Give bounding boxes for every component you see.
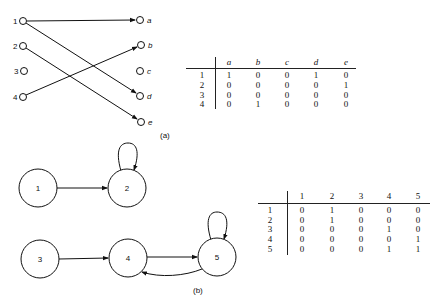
matrix-a-cell: 1 [248, 99, 268, 109]
bipartite-graph: 1 2 3 4 a b c d [13, 16, 170, 140]
node-2: 2 [108, 169, 146, 207]
matrix-b-row-label: 3 [260, 224, 280, 234]
matrix-b-cell: 1 [379, 224, 399, 234]
matrix-b-cell: 1 [379, 244, 399, 254]
matrix-b-cell: 1 [408, 234, 428, 244]
svg-text:3: 3 [14, 67, 19, 76]
matrix-a-cell: 0 [336, 99, 356, 109]
left-node-2: 2 [13, 42, 27, 51]
edge-1-a [27, 20, 135, 21]
matrix-b-cell: 0 [292, 244, 312, 254]
node-4: 4 [109, 239, 147, 277]
matrix-a-row-label: 4 [192, 99, 212, 109]
svg-text:d: d [147, 92, 152, 101]
right-node-d: d [137, 92, 153, 101]
right-node-e: e [138, 118, 154, 127]
matrix-b-row-label: 1 [260, 205, 280, 215]
matrix-b-header-rule [258, 203, 430, 204]
matrix-a-cell: 0 [306, 80, 326, 90]
matrix-b-cell: 0 [322, 224, 342, 234]
right-node-a: a [137, 16, 153, 25]
matrix-a-cell: 1 [219, 70, 239, 80]
matrix-a-cell: 0 [277, 99, 297, 109]
matrix-a-row-rule [215, 57, 216, 109]
matrix-a-col-header: e [336, 57, 356, 67]
matrix-a-col-header: a [219, 57, 239, 67]
matrix-b-cell: 0 [292, 224, 312, 234]
svg-text:b: b [148, 41, 153, 50]
matrix-b-cell: 0 [351, 244, 371, 254]
left-node-3: 3 [14, 67, 28, 76]
node-1: 1 [19, 169, 57, 207]
self-loop-2 [118, 143, 137, 171]
edge-5-4 [142, 269, 202, 276]
matrix-a-cell: 0 [248, 80, 268, 90]
edge-4-b [26, 47, 137, 95]
svg-text:1: 1 [13, 17, 18, 26]
matrix-a-cell: 0 [277, 80, 297, 90]
matrix-b-cell: 0 [292, 234, 312, 244]
left-node-1: 1 [13, 17, 27, 26]
edge-3-4 [59, 258, 108, 259]
matrix-b-row-label: 4 [260, 234, 280, 244]
matrix-a-col-header: d [306, 57, 326, 67]
node-5: 5 [198, 238, 236, 276]
matrix-a-col-header: b [248, 57, 268, 67]
figure-canvas: 1 2 3 4 a b c d [0, 0, 447, 306]
matrix-b-cell: 0 [322, 244, 342, 254]
matrix-b-col-header: 3 [351, 191, 371, 201]
matrix-a-cell: 0 [336, 70, 356, 80]
matrix-b-cell: 0 [408, 224, 428, 234]
matrix-b-row-rule [287, 191, 288, 255]
matrix-b-cell: 1 [408, 244, 428, 254]
matrix-b-cell: 0 [408, 205, 428, 215]
matrix-a-cell: 0 [219, 99, 239, 109]
svg-text:5: 5 [215, 253, 220, 262]
svg-text:1: 1 [36, 184, 41, 193]
matrix-b-cell: 0 [322, 234, 342, 244]
matrix-b-cell: 0 [292, 205, 312, 215]
matrix-a-col-header: c [277, 57, 297, 67]
matrix-b-cell: 0 [379, 205, 399, 215]
matrix-a-cell: 1 [306, 70, 326, 80]
matrix-b-col-header: 5 [408, 191, 428, 201]
svg-text:2: 2 [125, 184, 130, 193]
svg-text:3: 3 [38, 255, 43, 264]
matrix-b-col-header: 2 [322, 191, 342, 201]
svg-text:a: a [147, 16, 152, 25]
matrix-b-cell: 0 [351, 234, 371, 244]
right-node-c: c [137, 67, 152, 76]
node-3: 3 [21, 240, 59, 278]
matrix-b-cell: 0 [351, 205, 371, 215]
matrix-b-col-header: 4 [379, 191, 399, 201]
matrix-a-cell: 1 [336, 80, 356, 90]
matrix-a-cell: 0 [306, 99, 326, 109]
svg-text:4: 4 [126, 254, 131, 263]
directed-graph: 1 2 3 4 5 (b) [19, 143, 236, 295]
matrix-b-row-label: 5 [260, 244, 280, 254]
matrix-a-row-label: 2 [192, 80, 212, 90]
matrix-b-cell: 1 [322, 205, 342, 215]
left-node-4: 4 [13, 93, 27, 102]
matrix-b-col-header: 1 [292, 191, 312, 201]
self-loop-5 [208, 212, 227, 240]
matrix-a-cell: 0 [277, 70, 297, 80]
matrix-a-cell: 0 [248, 70, 268, 80]
matrix-a-row-label: 1 [192, 70, 212, 80]
matrix-b-cell: 0 [379, 234, 399, 244]
svg-text:4: 4 [13, 93, 18, 102]
caption-b: (b) [193, 286, 203, 295]
svg-text:c: c [147, 67, 151, 76]
svg-text:2: 2 [13, 42, 18, 51]
matrix-a-cell: 0 [219, 80, 239, 90]
matrix-a-header-rule [186, 68, 356, 69]
right-node-b: b [138, 41, 154, 50]
matrix-b-cell: 0 [351, 224, 371, 234]
svg-text:e: e [148, 118, 153, 127]
caption-a: (a) [160, 131, 170, 140]
